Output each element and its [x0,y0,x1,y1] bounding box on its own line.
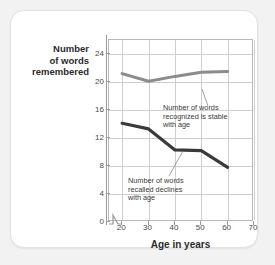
y-tick-mark [106,193,110,194]
annotation-recalled: Number of words recalled declines with a… [128,177,206,203]
x-tick-mark [148,221,149,225]
x-tick-mark [174,221,175,225]
x-tick-mark [200,221,201,225]
y-tick-mark [106,109,110,110]
y-tick-mark [106,137,110,138]
x-axis-tick-labels: 203040506070 [108,223,253,237]
chart-card: Number of words remembered 04812162024 N… [10,10,258,248]
y-tick-mark [106,165,110,166]
x-axis-title: Age in years [108,239,253,250]
y-tick-mark [106,221,110,222]
x-tick-mark [253,221,254,225]
x-tick-mark [121,221,122,225]
annotation-recognized: Number of words recognized is stable wit… [163,104,245,130]
x-tick-mark [227,221,228,225]
y-tick-mark [106,81,110,82]
y-tick-mark [106,53,110,54]
annotation-leader-lines [11,11,259,249]
leader-line-recalled [169,151,183,176]
